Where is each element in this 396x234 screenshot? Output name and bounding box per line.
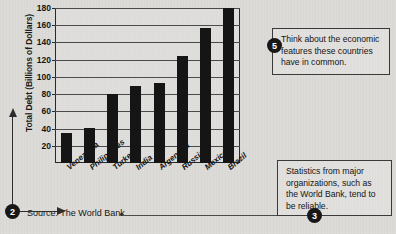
x-label-slot-philippines: Philippines: [78, 163, 101, 208]
x-label-slot-venezuela: Venezuela: [55, 163, 78, 208]
bar-slot-india: [124, 8, 147, 163]
y-tick-label-120: 120: [37, 55, 51, 65]
y-tick-label-40: 40: [42, 124, 51, 134]
bar-venezuela: [61, 133, 72, 163]
bar-slot-russia: [171, 8, 194, 163]
marker-2-arrow-vertical: [12, 116, 13, 208]
x-label-slot-brazil: Brazil: [217, 163, 240, 208]
y-tick-label-140: 140: [37, 37, 51, 47]
marker-2-arrow-horizontal: [19, 211, 59, 212]
y-tick-label-160: 160: [37, 20, 51, 30]
x-label-slot-argentina: Argentina: [148, 163, 171, 208]
y-tick-label-80: 80: [42, 89, 51, 99]
marker-2-arrow-head-up: [9, 108, 17, 117]
callout-box-bottom: Statistics from major organizations, suc…: [277, 160, 392, 216]
x-label-slot-mexico: Mexico: [194, 163, 217, 208]
callout-top-text: Think about the economic features these …: [281, 34, 383, 69]
callout-marker-2: 2: [5, 204, 20, 219]
bar-mexico: [200, 28, 211, 163]
bar-slot-philippines: [78, 8, 101, 163]
callout-marker-5: 5: [267, 38, 282, 53]
x-label-slot-russia: Russia: [171, 163, 194, 208]
bar-slot-argentina: [148, 8, 171, 163]
callout-box-top: Think about the economic features these …: [272, 28, 390, 75]
marker-2-arrow-head-right: [57, 207, 66, 215]
y-tick-label-100: 100: [37, 72, 51, 82]
x-label-slot-turkey: Turkey: [101, 163, 124, 208]
chart-plot-area: 20406080100120140160180: [55, 8, 240, 163]
y-tick-label-60: 60: [42, 106, 51, 116]
figure-page: Total Debt (Billions of Dollars) 2040608…: [0, 0, 396, 234]
y-tick-label-20: 20: [42, 141, 51, 151]
y-axis-title: Total Debt (Billions of Dollars): [24, 0, 34, 148]
bar-slot-venezuela: [55, 8, 78, 163]
bar-series: [55, 8, 240, 163]
bar-slot-mexico: [194, 8, 217, 163]
bar-brazil: [223, 8, 234, 163]
y-tick-label-180: 180: [37, 3, 51, 13]
bar-argentina: [154, 83, 165, 163]
callout-marker-3: 3: [307, 208, 322, 223]
source-text: Source: The World Bank: [27, 208, 125, 218]
callout-bottom-text: Statistics from major organizations, suc…: [286, 166, 385, 212]
bar-slot-brazil: [217, 8, 240, 163]
x-label-slot-india: India: [124, 163, 147, 208]
x-axis-labels: VenezuelaPhilippinesTurkeyIndiaArgentina…: [55, 163, 240, 208]
